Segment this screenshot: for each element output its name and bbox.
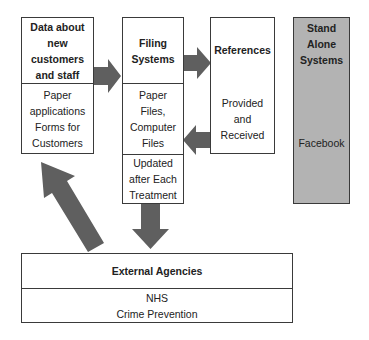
references-box: References Provided and Received [210,17,275,154]
body-line: Computer [130,119,176,135]
filing-systems-box: Filing Systems Paper Files, Computer Fil… [122,17,184,204]
data-customers-body: Paper applications Forms for Customers [22,83,93,153]
title-line: Stand [307,20,336,36]
arrow-filing-to-external [132,204,169,249]
filing-systems-title: Filing Systems [123,18,183,83]
standalone-title: Stand Alone Systems [294,18,349,70]
title-line: and staff [36,67,80,83]
body-line: Facebook [298,135,344,151]
data-customers-title: Data about new customers and staff [22,18,93,83]
references-title: References [211,40,274,60]
title-line: Systems [131,51,174,67]
body-line: Provided [222,95,263,111]
body-line: Forms for [35,119,80,135]
references-body: Provided and Received [211,94,274,144]
title-line: Systems [300,52,343,68]
body-line: Received [221,127,265,143]
footer-line: after Each [129,171,177,187]
body-line: Paper [139,87,167,103]
arrow-filing-to-references [184,47,211,79]
footer-line: Updated [133,155,173,171]
body-line: and [234,111,252,127]
arrow-external-to-data [41,162,104,252]
title-line: Data about [30,19,84,35]
title-line: External Agencies [112,263,203,279]
arrow-references-to-filing [183,125,210,155]
title-line: new [47,35,67,51]
standalone-body: Facebook [294,134,349,152]
external-agencies-body: NHS Crime Prevention [22,288,292,322]
title-line: References [214,42,271,58]
body-line: Files [142,135,164,151]
external-agencies-box: External Agencies NHS Crime Prevention [21,253,293,323]
body-line: Customers [32,135,83,151]
body-line: Files, [140,103,165,119]
filing-systems-body: Paper Files, Computer Files [123,83,183,154]
title-line: Alone [307,36,336,52]
body-line: Crime Prevention [116,306,197,322]
data-customers-box: Data about new customers and staff Paper… [21,17,94,154]
arrow-data-to-filing [94,59,121,93]
standalone-systems-box: Stand Alone Systems Facebook [293,17,350,204]
body-line: Paper [43,87,71,103]
body-line: NHS [146,290,168,306]
title-line: customers [31,51,84,67]
external-agencies-title: External Agencies [22,254,292,288]
filing-systems-footer: Updated after Each Treatment [123,154,183,203]
title-line: Filing [139,35,167,51]
footer-line: Treatment [129,187,176,203]
body-line: applications [30,103,85,119]
